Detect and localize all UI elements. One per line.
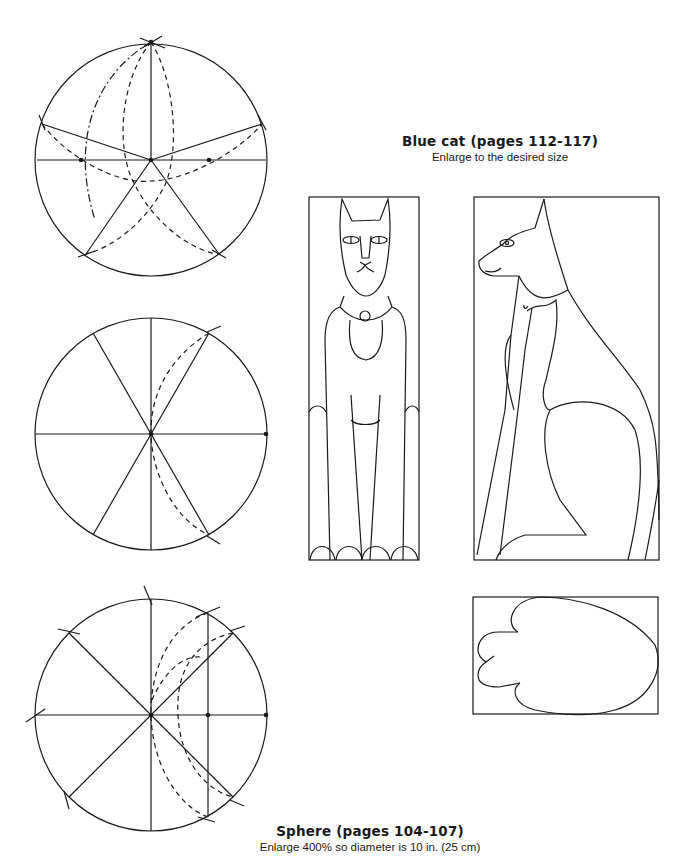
cat-subtitle: Enlarge to the desired size xyxy=(370,151,630,163)
cat-caption: Blue cat (pages 112-117) Enlarge to the … xyxy=(370,133,630,163)
pattern-sheet xyxy=(0,0,689,868)
sphere-title: Sphere (pages 104-107) xyxy=(200,823,540,839)
sphere-subtitle: Enlarge 400% so diameter is 10 in. (25 c… xyxy=(200,841,540,853)
sphere-caption: Sphere (pages 104-107) Enlarge 400% so d… xyxy=(200,823,540,853)
sphere-diagram-pentagon xyxy=(35,36,267,276)
cat-side-template xyxy=(474,197,659,560)
sphere-diagram-hexagon xyxy=(35,318,268,550)
cat-title: Blue cat (pages 112-117) xyxy=(370,133,630,149)
cat-front-template xyxy=(309,197,419,560)
cat-paw-template xyxy=(473,597,658,715)
sphere-diagram-octagon xyxy=(26,586,268,831)
